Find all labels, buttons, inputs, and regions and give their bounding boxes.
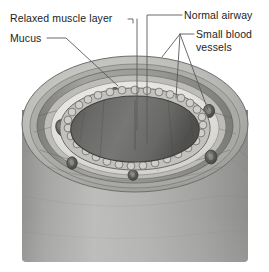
blood-vessel: [128, 170, 138, 181]
label-small-blood-vessels-line1: Small blood: [196, 28, 252, 40]
label-relaxed-muscle-layer: Relaxed muscle layer: [10, 12, 112, 25]
airway-lumen: [71, 96, 199, 162]
label-small-blood-vessels-line2: vessels: [196, 41, 232, 53]
blood-vessel: [205, 150, 217, 164]
label-normal-airway: Normal airway: [184, 9, 252, 22]
label-mucus: Mucus: [10, 32, 41, 45]
leader-small-vessels-a: [162, 34, 194, 57]
leader-relaxed-muscle-elbow: [128, 19, 133, 23]
blood-vessel: [67, 157, 77, 169]
label-small-blood-vessels: Small bloodvessels: [196, 28, 252, 53]
